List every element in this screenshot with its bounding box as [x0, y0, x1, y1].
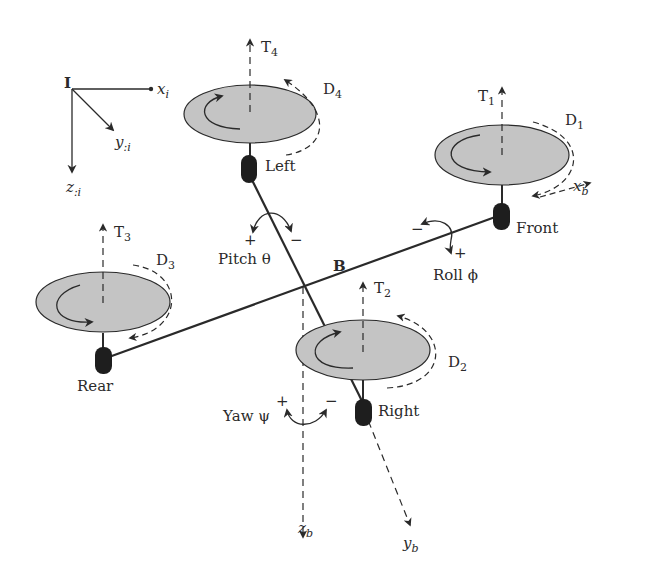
motor-icon: [493, 203, 510, 230]
xb-label: xb: [573, 177, 589, 198]
roll-label: Roll ϕ: [433, 266, 478, 284]
zi-label: z:i: [65, 178, 81, 199]
roll-rotation: − + Roll ϕ: [411, 220, 478, 284]
roll-plus: +: [454, 244, 467, 262]
thrust-label: T4: [261, 38, 278, 59]
motor-label: Front: [516, 219, 558, 237]
inertial-origin-label: I: [64, 74, 71, 92]
rotor-front: Front T1 D1: [435, 87, 590, 237]
yaw-minus: −: [325, 392, 338, 410]
pitch-minus: −: [290, 231, 303, 249]
drag-label: D1: [565, 111, 584, 132]
yaw-arrow-icon: [287, 410, 326, 424]
pitch-rotation: + − Pitch θ: [218, 213, 303, 268]
rotor-right: Right T2 D2: [296, 279, 467, 426]
body-origin-label: B: [333, 257, 346, 275]
y-axis-arrow-icon: [72, 89, 113, 130]
thrust-label: T1: [478, 87, 495, 108]
motor-label: Right: [378, 402, 419, 420]
drag-label: D3: [156, 251, 175, 272]
drag-label: D2: [448, 353, 467, 374]
motor-label: Left: [265, 157, 295, 175]
quadrotor-diagram: I xi y:i z:i B xb yb zb Left T4 D4: [0, 0, 649, 584]
yaw-plus: +: [276, 392, 289, 410]
drag-label: D4: [323, 80, 342, 101]
yaw-rotation: + − Yaw ψ: [222, 392, 338, 425]
rotor-left: Left T4 D4: [184, 38, 342, 183]
pitch-label: Pitch θ: [218, 250, 271, 268]
zb-label: zb: [297, 519, 313, 540]
xi-label: xi: [157, 80, 169, 101]
pitch-plus: +: [244, 231, 257, 249]
motor-label: Rear: [77, 377, 114, 395]
rotor-rear: Rear T3 D3: [36, 223, 175, 395]
yaw-label: Yaw ψ: [222, 407, 270, 425]
motor-icon: [241, 155, 257, 183]
thrust-label: T2: [374, 279, 391, 300]
yb-label: yb: [402, 534, 419, 555]
yi-label: y:i: [114, 133, 131, 154]
thrust-label: T3: [114, 223, 131, 244]
motor-icon: [355, 399, 372, 426]
yb-axis-arrow-icon: [364, 410, 410, 525]
inertial-frame: I xi y:i z:i: [64, 74, 169, 199]
roll-minus: −: [411, 220, 424, 238]
x-axis-dot-icon: [149, 87, 153, 91]
motor-icon: [95, 347, 112, 374]
